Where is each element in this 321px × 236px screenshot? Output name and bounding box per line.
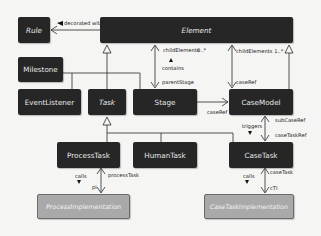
label-case-task: caseTask — [270, 170, 293, 175]
triggers-direction-icon — [248, 131, 252, 135]
class-case-task[interactable]: CaseTask — [229, 142, 293, 168]
class-stage-label: Stage — [155, 98, 176, 107]
calls-right-direction-icon — [245, 180, 249, 184]
class-element[interactable]: Element — [100, 17, 293, 43]
class-task[interactable]: Task — [88, 89, 126, 115]
class-event-listener-label: EventListener — [25, 98, 75, 107]
class-human-task[interactable]: HumanTask — [133, 142, 197, 168]
label-case-ref-stage: caseRef — [207, 110, 227, 115]
class-milestone-label: Milestone — [23, 65, 58, 74]
label-multiplicity-0: 0..* — [197, 48, 206, 53]
class-case-task-implementation[interactable]: CaseTaskImplementation — [204, 194, 294, 219]
label-calls-left: calls — [75, 174, 87, 179]
class-milestone[interactable]: Milestone — [18, 57, 63, 82]
label-parent-stage: parentStage — [162, 80, 194, 85]
class-task-label: Task — [99, 98, 115, 107]
class-case-model-label: CaseModel — [241, 98, 280, 107]
diagram-canvas: Rule Element Milestone EventListener Tas… — [0, 0, 321, 236]
class-process-task[interactable]: ProcessTask — [57, 142, 120, 168]
calls-left-direction-icon — [77, 180, 81, 184]
label-child-elements-1: childElements 1..* — [236, 49, 283, 54]
class-process-task-label: ProcessTask — [67, 151, 110, 160]
label-case-task-ref: caseTaskRef — [275, 133, 307, 138]
class-process-implementation-label: ProcessImplementation — [46, 203, 121, 211]
class-rule-label: Rule — [26, 26, 42, 35]
decorated-with-direction-icon — [57, 21, 63, 26]
label-pi: pi — [92, 185, 97, 190]
class-element-label: Element — [182, 26, 212, 35]
class-process-implementation[interactable]: ProcessImplementation — [37, 194, 130, 219]
label-contains: contains — [162, 66, 184, 71]
label-decorated-with: decorated with — [64, 21, 103, 26]
label-cti: cTI — [270, 186, 278, 191]
label-process-task: processTask — [108, 173, 139, 178]
label-calls-right: calls — [243, 174, 255, 179]
class-case-model[interactable]: CaseModel — [229, 89, 293, 115]
class-event-listener[interactable]: EventListener — [18, 89, 81, 115]
task-generalization-triangle — [103, 45, 111, 53]
label-triggers: triggers — [242, 124, 262, 129]
label-child-elements-0: childElements — [163, 48, 200, 53]
label-case-ref-top: caseRef — [236, 80, 256, 85]
contains-direction-icon — [169, 58, 173, 62]
task-subtypes-triangle — [103, 117, 111, 125]
class-stage[interactable]: Stage — [133, 89, 197, 115]
casemodel-generalization-triangle — [285, 45, 293, 53]
label-sub-case-ref: subCaseRef — [275, 118, 305, 123]
class-case-task-label: CaseTask — [244, 151, 277, 160]
class-human-task-label: HumanTask — [144, 151, 185, 160]
class-rule[interactable]: Rule — [18, 17, 50, 43]
class-case-task-implementation-label: CaseTaskImplementation — [210, 203, 288, 210]
